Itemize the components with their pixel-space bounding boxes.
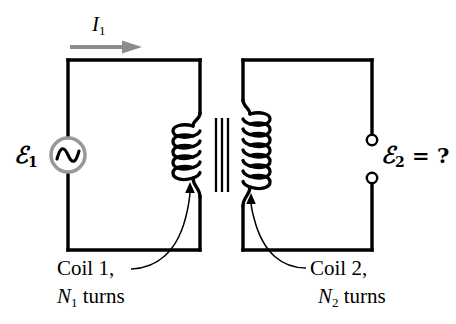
emf2-subscript: 2 [395, 154, 405, 170]
terminal-upper [367, 135, 377, 145]
coil1-turns-word: turns [78, 284, 125, 308]
transformer-diagram: ℰ1 ℰ2 = ? I1 Coil 1, N1 turns Coil 2, N2… [0, 0, 456, 324]
leader-line-coil1 [131, 182, 195, 269]
emf2-label: ℰ2 = ? [381, 143, 449, 169]
current-arrow [70, 41, 142, 54]
leader-line-coil2-path [251, 201, 306, 268]
output-terminals [367, 135, 377, 183]
leader-line-coil1-path [131, 190, 190, 269]
coil2-turns-word: turns [339, 284, 386, 308]
secondary-coil [243, 100, 270, 206]
current-symbol: I [92, 12, 99, 36]
emf2-symbol: ℰ [381, 141, 395, 168]
terminal-lower [367, 173, 377, 183]
current-subscript: 1 [99, 23, 106, 38]
primary-coil [173, 113, 200, 197]
emf1-symbol: ℰ [14, 141, 28, 168]
coil1-name-label: Coil 1, [57, 258, 114, 279]
coil1-turns-symbol: N [57, 284, 71, 308]
coil2-name-label: Coil 2, [310, 258, 367, 279]
coil2-turns-label: N2 turns [318, 286, 386, 309]
current-arrow-head [122, 41, 142, 54]
leader-line-coil2 [246, 193, 306, 268]
coil2-turns-symbol: N [318, 284, 332, 308]
current-label: I1 [92, 14, 106, 37]
transformer-core [216, 118, 228, 192]
emf1-label: ℰ1 [14, 143, 38, 169]
ac-source [51, 138, 85, 172]
emf2-suffix: = ? [405, 143, 450, 168]
emf1-subscript: 1 [28, 154, 38, 170]
coil1-turns-label: N1 turns [57, 286, 125, 309]
